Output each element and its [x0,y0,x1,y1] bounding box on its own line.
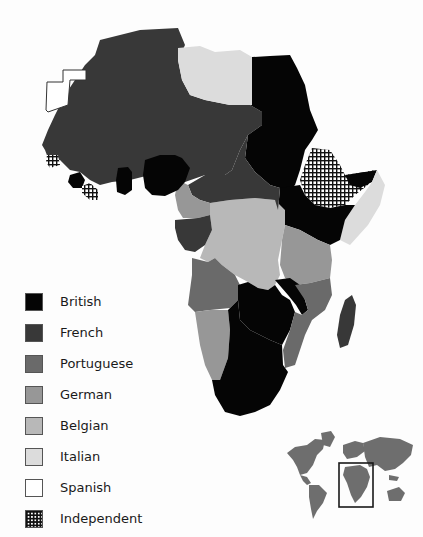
region-british-sierra-leone [68,172,85,188]
swatch-french [25,324,43,342]
region-british-gold-coast [116,167,132,195]
swatch-italian [25,448,43,466]
legend-item-italian: Italian [25,441,142,472]
legend-item-german: German [25,379,142,410]
swatch-independent [25,510,43,528]
continent-south-america [309,485,327,519]
continent-australia [387,487,405,501]
continent-europe [343,441,365,459]
continent-se-asia [389,475,399,481]
region-french-madagascar [337,295,356,348]
swatch-german [25,386,43,404]
region-independent-liberia [82,183,98,200]
swatch-belgian [25,417,43,435]
legend-label: Belgian [60,418,109,433]
continent-north-america [287,439,325,475]
legend-item-french: French [25,317,142,348]
legend-label: Portuguese [60,356,133,371]
swatch-british [25,293,43,311]
legend: British French Portuguese German Belgian… [25,286,142,534]
legend-label: German [60,387,112,402]
legend-label: French [60,325,103,340]
legend-label: British [60,294,102,309]
legend-item-spanish: Spanish [25,472,142,503]
legend-label: Italian [60,449,100,464]
legend-item-british: British [25,286,142,317]
continent-asia [363,437,413,471]
continent-greenland [321,431,335,447]
legend-label: Independent [60,511,142,526]
swatch-portuguese [25,355,43,373]
legend-item-independent: Independent [25,503,142,534]
swatch-spanish [25,479,43,497]
legend-item-belgian: Belgian [25,410,142,441]
legend-label: Spanish [60,480,111,495]
legend-item-portuguese: Portuguese [25,348,142,379]
continent-africa [343,465,370,503]
continent-central-america [300,475,311,485]
world-locator-map [285,425,420,525]
region-independent-west [46,155,60,168]
